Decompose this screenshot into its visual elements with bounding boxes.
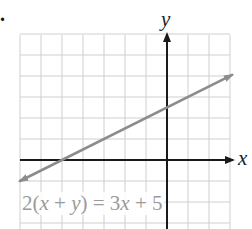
- equation-text: ) = 3: [81, 191, 121, 215]
- equation-text: + 5: [130, 191, 163, 215]
- equation-text: 2(: [22, 191, 40, 215]
- x-axis-label: x: [238, 148, 247, 169]
- equation-label: 2(x + y) = 3x + 5: [21, 192, 164, 215]
- equation-variable: y: [71, 191, 80, 215]
- equation-variable: x: [120, 191, 129, 215]
- graph-figure: . y x 2(x + y) = 3x + 5: [0, 0, 252, 229]
- y-axis-label: y: [161, 9, 170, 30]
- equation-variable: x: [40, 191, 49, 215]
- graph-line: [20, 75, 232, 181]
- equation-text: +: [49, 191, 71, 215]
- equation-line: [20, 75, 232, 181]
